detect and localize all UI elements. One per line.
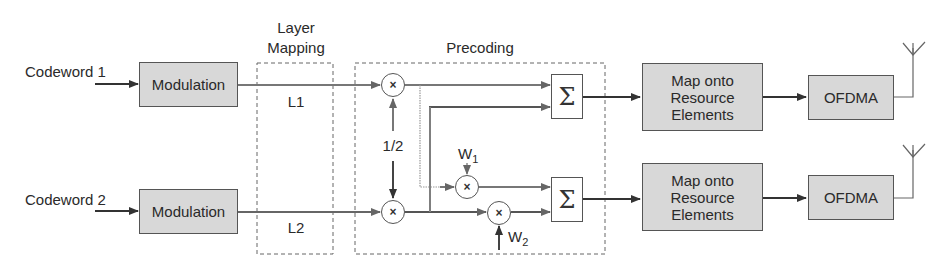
codeword-1-label: Codeword 1 [25,64,106,79]
multiplier-w1-icon: × [455,175,479,199]
sum-block-1: Σ [551,74,583,119]
resource-mapping-block-2: Map onto Resource Elements [642,163,763,231]
precoding-title: Precoding [430,40,530,55]
scale-factor-label: 1/2 [378,138,408,153]
layer-l2-label: L2 [258,220,334,235]
weight-w1-label: W1 [458,146,478,165]
multiplier-w2-icon: × [487,201,511,225]
layer-mapping-title-line2: Mapping [258,40,334,55]
ofdma-label: OFDMA [824,189,878,206]
layer-mapping-title-line1: Layer [258,20,334,35]
ofdma-block-2: OFDMA [808,175,894,220]
resource-mapping-line: Resource [670,89,734,106]
resource-mapping-line: Map onto [671,72,734,89]
multiplier-icon: × [381,200,405,224]
ofdma-label: OFDMA [824,89,878,106]
antenna-icon [893,144,925,198]
codeword-2-label: Codeword 2 [25,192,106,207]
sum-block-2: Σ [551,177,583,222]
resource-mapping-block-1: Map onto Resource Elements [642,63,763,131]
modulation-block-1: Modulation [139,62,238,107]
ofdma-block-1: OFDMA [808,75,894,120]
weight-w2-label: W2 [508,229,528,248]
resource-mapping-line: Elements [671,206,734,223]
antenna-icon [893,42,925,97]
modulation-block-2: Modulation [139,189,238,234]
multiplier-icon: × [381,73,405,97]
modulation-label: Modulation [152,203,225,220]
resource-mapping-line: Elements [671,106,734,123]
modulation-label: Modulation [152,76,225,93]
layer-l1-label: L1 [258,94,334,109]
resource-mapping-line: Map onto [671,172,734,189]
resource-mapping-line: Resource [670,189,734,206]
